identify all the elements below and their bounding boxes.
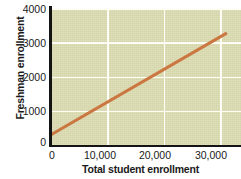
y-tick-label-2000: 2000 [0,71,46,83]
y-tick-label-0: 0 [0,136,46,148]
y-axis-tick-labels: 4000 3000 2000 1000 0 [0,0,46,179]
plot-area [51,8,241,145]
x-tick-label-20000: 20,000 [139,149,171,161]
chart-figure: Freshman enrollment 4000 3000 2000 1000 … [0,0,241,179]
x-tick-label-10000: 10,000 [84,149,116,161]
x-tick-label-30000: 30,000 [195,149,227,161]
y-tick-label-3000: 3000 [0,37,46,49]
y-tick-label-1000: 1000 [0,105,46,117]
x-axis-spine [49,145,241,148]
y-axis-spine [49,6,52,147]
x-tick-label-0: 0 [49,149,55,161]
y-tick-label-4000: 4000 [0,3,46,15]
trend-line-series [51,8,241,145]
x-axis-label: Total student enrollment [40,163,241,175]
